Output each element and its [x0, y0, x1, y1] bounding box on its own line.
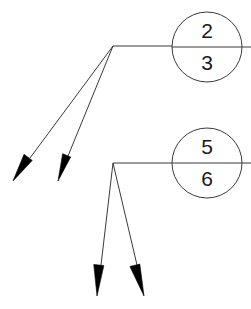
arrow-lower-left-shaft — [101, 163, 113, 265]
circle-node-2-3[interactable]: 23 — [172, 12, 251, 82]
circle-nodes-layer: 2356 — [172, 12, 251, 198]
figure-root: 2356 — [0, 0, 251, 309]
diagram-canvas: 2356 — [0, 0, 251, 309]
arrow-upper-right-head — [58, 154, 71, 181]
arrow-lower-right-head — [130, 264, 144, 296]
arrow-upper-right-shaft — [68, 46, 113, 156]
circle-node-5-6-upper-label: 5 — [201, 135, 213, 158]
arrow-upper-right — [58, 46, 113, 181]
arrow-lower-right — [113, 163, 144, 296]
arrow-lower-left-head — [94, 264, 104, 296]
arrow-upper-left-shaft — [30, 46, 113, 158]
circle-node-5-6-lower-label: 6 — [201, 167, 213, 190]
arrow-lower-right-shaft — [113, 163, 137, 265]
circle-node-2-3-upper-label: 2 — [201, 19, 213, 42]
arrow-lower-left — [94, 163, 113, 296]
arrow-upper-left-head — [13, 154, 32, 181]
leader-lines-layer — [113, 46, 174, 163]
arrows-layer — [13, 46, 144, 296]
circle-node-5-6[interactable]: 56 — [172, 128, 251, 198]
circle-node-2-3-lower-label: 3 — [201, 51, 213, 74]
